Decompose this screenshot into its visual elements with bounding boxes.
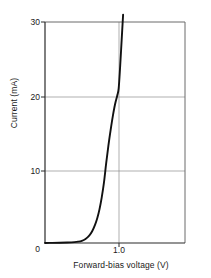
y-tick-label-20: 20 (18, 93, 40, 102)
grid-lines (45, 22, 185, 243)
x-tick-label-1-0: 1.0 (104, 246, 134, 255)
x-axis-title: Forward-bias voltage (V) (45, 260, 197, 270)
diode-iv-characteristic-chart: Current (mA) Forward-bias voltage (V) 30… (0, 0, 211, 278)
axis-frame (45, 22, 185, 243)
y-tick-label-30: 30 (18, 18, 40, 27)
iv-curve (45, 15, 123, 243)
y-tick-label-10: 10 (18, 167, 40, 176)
y-tick-label-0: 0 (18, 245, 40, 254)
plot-area (0, 0, 211, 278)
tick-marks (41, 22, 119, 247)
y-axis-title: Current (mA) (9, 53, 19, 153)
